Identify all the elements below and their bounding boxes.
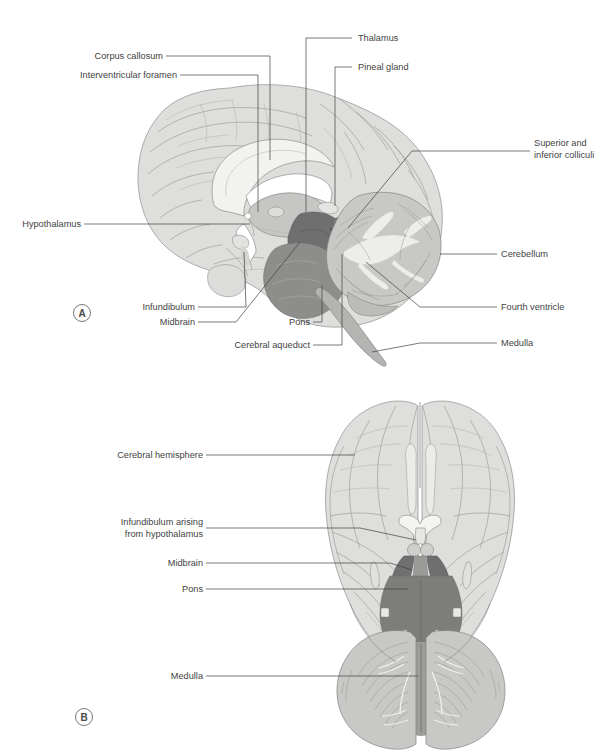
interthalamic-adhesion: [268, 207, 284, 217]
label-cerebral-aqueduct: Cerebral aqueduct: [234, 340, 310, 350]
right-trigeminal-nerve: [453, 608, 461, 617]
label-pons-b: Pons: [182, 584, 203, 594]
label-hypothalamus: Hypothalamus: [22, 219, 81, 229]
label-fourth-ventricle: Fourth ventricle: [501, 302, 564, 312]
label-midbrain-a: Midbrain: [160, 317, 195, 327]
label-cerebral-hemisphere: Cerebral hemisphere: [117, 450, 203, 460]
interpeduncular-fossa: [413, 556, 428, 578]
label-infundibulum-b-line2: from hypothalamus: [125, 529, 204, 539]
label-colliculi-line1: Superior and: [534, 138, 587, 148]
left-mammillary-body: [408, 544, 421, 557]
panel-a-illustration: Corpus callosum Interventricular foramen…: [0, 0, 605, 380]
panel-b-labels: Cerebral hemisphere Infundibulum arising…: [117, 450, 204, 681]
label-pons-a: Pons: [289, 317, 310, 327]
panel-a-midsagittal-view: Corpus callosum Interventricular foramen…: [0, 0, 605, 380]
label-midbrain-b: Midbrain: [168, 558, 203, 568]
label-interventricular-foramen: Interventricular foramen: [80, 70, 177, 80]
label-infundibulum-b-line1: Infundibulum arising: [121, 517, 203, 527]
panel-marker-letter-a: A: [78, 308, 85, 319]
panel-b-inferior-view: Cerebral hemisphere Infundibulum arising…: [0, 380, 605, 754]
label-pineal-gland: Pineal gland: [358, 62, 409, 72]
left-trigeminal-nerve: [381, 608, 389, 617]
interventricular-foramen-structure: [245, 213, 251, 219]
label-cerebellum: Cerebellum: [501, 249, 548, 259]
leader-medulla: [372, 343, 497, 352]
label-corpus-callosum: Corpus callosum: [95, 51, 164, 61]
temporal-pole: [208, 265, 246, 297]
mammillary-bodies: [408, 544, 434, 557]
panel-a-marker: A: [74, 305, 91, 322]
infundibulum-stalk: [415, 528, 425, 544]
label-thalamus: Thalamus: [358, 33, 399, 43]
right-mammillary-body: [421, 544, 434, 557]
label-medulla-b: Medulla: [171, 671, 204, 681]
panel-marker-letter-b: B: [80, 712, 87, 723]
label-colliculi-line2: inferior colliculi: [534, 150, 594, 160]
olfactory-tracts: [406, 444, 437, 514]
panel-b-marker: B: [76, 709, 93, 726]
brain-anatomy-figure: Corpus callosum Interventricular foramen…: [0, 0, 605, 754]
label-medulla-a: Medulla: [501, 338, 534, 348]
label-infundibulum-a: Infundibulum: [142, 302, 195, 312]
panel-b-illustration: Cerebral hemisphere Infundibulum arising…: [0, 380, 605, 754]
